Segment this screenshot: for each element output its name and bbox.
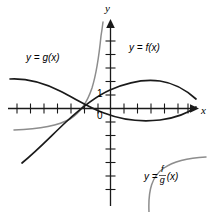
y-axis-arrow-icon	[106, 19, 115, 28]
ratio-label-tail: (x)	[167, 171, 179, 182]
ratio-numerator: f	[160, 165, 165, 174]
ratio-denominator: g	[159, 176, 166, 185]
curve-g	[10, 79, 196, 121]
ratio-label-lead: y =	[144, 171, 158, 182]
y-axis-label: y	[105, 2, 110, 14]
math-figure: y x 1 0 y = g(x) y = f(x) y = f g (x)	[0, 0, 212, 212]
figure-canvas	[0, 0, 212, 212]
curve-label-g: y = g(x)	[26, 52, 60, 63]
y-unit-label-1: 1	[97, 88, 103, 99]
curve-exponential-branch	[14, 22, 103, 130]
curve-label-f: y = f(x)	[129, 42, 160, 53]
origin-label-0: 0	[97, 110, 103, 121]
x-axis-label: x	[201, 104, 206, 116]
curve-label-f-over-g: y = f g (x)	[144, 166, 178, 186]
ratio-fraction: f g	[159, 165, 166, 185]
